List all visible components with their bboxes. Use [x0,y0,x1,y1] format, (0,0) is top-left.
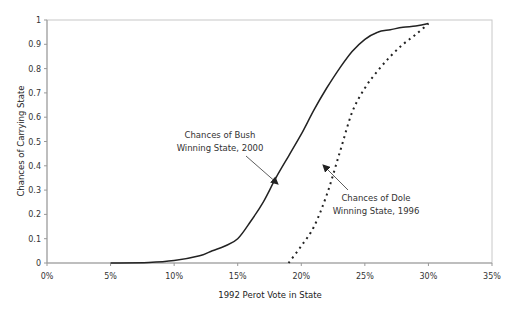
x-tick-label: 15% [229,272,247,281]
x-tick-label: 5% [104,272,117,281]
arrow-icon [246,156,278,184]
y-tick-label: 0.7 [28,89,41,98]
dole-1996-line [289,24,429,263]
x-tick-label: 10% [165,272,183,281]
y-axis: 00.10.20.30.40.50.60.70.80.91 [28,16,47,268]
arrow-icon [323,165,348,190]
y-tick-label: 1 [36,16,41,25]
x-axis-title: 1992 Perot Vote in State [218,290,322,300]
y-tick-label: 0 [36,259,41,268]
y-tick-label: 0.4 [28,162,41,171]
x-tick-label: 20% [292,272,310,281]
dole-annotation: Chances of DoleWinning State, 1996 [323,165,419,216]
annotation-text: Winning State, 2000 [177,143,264,153]
bush-annotation: Chances of BushWinning State, 2000 [177,130,278,184]
x-tick-label: 30% [420,272,438,281]
y-tick-label: 0.5 [28,138,41,147]
annotations: Chances of BushWinning State, 2000Chance… [177,130,420,216]
y-tick-label: 0.1 [28,235,41,244]
series-layer [111,24,429,263]
plot-area [47,20,492,263]
y-tick-label: 0.9 [28,40,41,49]
annotation-text: Winning State, 1996 [333,206,420,216]
x-tick-label: 35% [483,272,501,281]
annotation-text: Chances of Bush [185,130,256,140]
x-axis: 0%5%10%15%20%25%30%35% [41,263,502,281]
y-tick-label: 0.2 [28,210,41,219]
y-tick-label: 0.6 [28,113,41,122]
bush-2000-line [111,24,429,263]
x-tick-label: 25% [356,272,374,281]
y-tick-label: 0.3 [28,186,41,195]
annotation-text: Chances of Dole [341,193,410,203]
y-tick-label: 0.8 [28,65,41,74]
chart: 00.10.20.30.40.50.60.70.80.91 0%5%10%15%… [0,0,517,310]
y-axis-title: Chances of Carrying State [16,85,26,196]
plot-border [47,20,492,263]
x-tick-label: 0% [41,272,54,281]
